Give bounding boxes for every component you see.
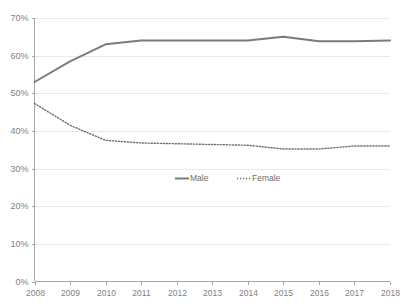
chart-plot-area: 0%10%20%30%40%50%60%70% 2008200920102011… — [0, 0, 403, 308]
x-axis-tick-label: 2017 — [345, 288, 364, 298]
legend-label-male: Male — [190, 173, 209, 183]
line-chart: 0%10%20%30%40%50%60%70% 2008200920102011… — [0, 0, 403, 308]
y-axis-tick-label: 20% — [10, 201, 28, 211]
x-axis-tick-label: 2012 — [168, 288, 187, 298]
x-axis-tick-label: 2009 — [61, 288, 80, 298]
x-axis-tick-label: 2018 — [381, 288, 400, 298]
series-line-female — [35, 103, 391, 149]
series-line-male — [35, 37, 391, 82]
x-axis-tick-label: 2016 — [310, 288, 329, 298]
y-axis-tick-label: 30% — [10, 164, 28, 174]
x-axis-tick-label: 2013 — [203, 288, 222, 298]
y-axis-tick-label: 0% — [15, 277, 28, 287]
y-axis-tick-label: 40% — [10, 126, 28, 136]
y-axis-tick-label: 50% — [10, 88, 28, 98]
x-axis-tick-label: 2014 — [239, 288, 258, 298]
y-axis-labels: 0%10%20%30%40%50%60%70% — [10, 13, 28, 287]
chart-legend: Male Female — [175, 173, 281, 183]
x-axis-tick-label: 2010 — [97, 288, 116, 298]
x-axis-tick-label: 2011 — [132, 288, 151, 298]
y-axis-tick-label: 10% — [10, 239, 28, 249]
y-axis-tick-label: 70% — [10, 13, 28, 23]
y-axis-tick-label: 60% — [10, 51, 28, 61]
legend-label-female: Female — [252, 173, 281, 183]
x-axis-tick-label: 2015 — [274, 288, 293, 298]
x-axis-tick-label: 2008 — [26, 288, 45, 298]
x-axis-labels: 2008200920102011201220132014201520162017… — [26, 288, 400, 298]
